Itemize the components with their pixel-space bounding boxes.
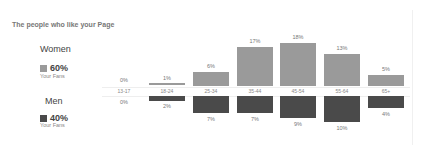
women-swatch-icon xyxy=(40,65,47,72)
legend-women-percent: 60% xyxy=(40,63,68,73)
women-value-label: 18% xyxy=(278,34,318,40)
legend-women-sub: Your Fans xyxy=(40,73,65,79)
women-bar xyxy=(237,47,273,86)
category-label: 13-17 xyxy=(104,88,144,94)
women-value-label: 5% xyxy=(366,66,406,72)
women-value-label: 1% xyxy=(147,75,187,81)
men-bar xyxy=(149,96,185,101)
women-value-label: 6% xyxy=(191,63,231,69)
women-bar xyxy=(193,72,229,86)
men-value-label: 9% xyxy=(278,121,318,127)
men-bar xyxy=(193,96,229,113)
women-bar xyxy=(280,43,316,86)
legend-men-sub: Your Fans xyxy=(40,122,65,128)
women-value-label: 13% xyxy=(322,45,362,51)
legend-women-value: 60% xyxy=(50,63,68,73)
men-bar xyxy=(280,96,316,118)
category-label: 55-64 xyxy=(322,88,362,94)
men-value-label: 0% xyxy=(104,99,144,105)
men-swatch-icon xyxy=(40,115,47,122)
legend-women-label: Women xyxy=(40,44,71,54)
men-value-label: 2% xyxy=(147,103,187,109)
women-bar xyxy=(368,75,404,86)
legend-men-label: Men xyxy=(45,96,63,106)
category-label: 65+ xyxy=(366,88,406,94)
men-bar xyxy=(237,96,273,113)
women-value-label: 0% xyxy=(104,77,144,83)
men-value-label: 4% xyxy=(366,111,406,117)
men-bar xyxy=(324,96,360,122)
chart-title: The people who like your Page xyxy=(12,21,114,28)
women-value-label: 17% xyxy=(235,38,275,44)
category-label: 25-34 xyxy=(191,88,231,94)
men-value-label: 10% xyxy=(322,125,362,131)
men-value-label: 7% xyxy=(191,116,231,122)
men-value-label: 7% xyxy=(235,116,275,122)
category-label: 45-54 xyxy=(278,88,318,94)
divider xyxy=(412,10,413,145)
women-bar xyxy=(149,83,185,85)
women-bar xyxy=(324,54,360,86)
category-label: 18-24 xyxy=(147,88,187,94)
men-bar xyxy=(368,96,404,108)
category-label: 35-44 xyxy=(235,88,275,94)
